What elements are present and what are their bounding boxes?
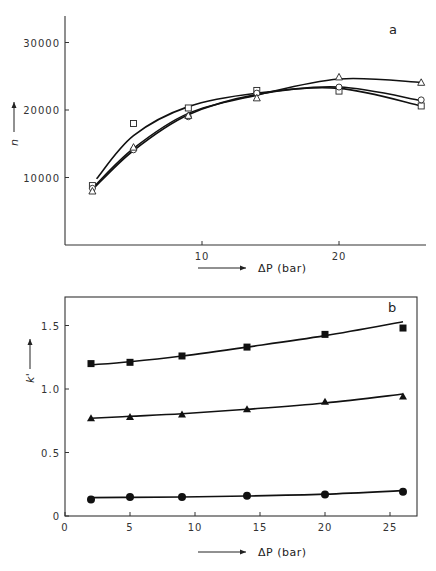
data-point-filled-circle [87, 495, 95, 503]
x-axis-label: ΔP (bar) [258, 546, 306, 559]
panel-label: b [388, 300, 396, 315]
y-axis-arrow-icon-head [28, 339, 33, 345]
x-tick-label: 10 [188, 522, 203, 533]
data-point-filled-square [88, 360, 95, 367]
x-tick-label: 5 [126, 522, 133, 533]
figure: 1020100002000030000aΔP (bar)n 0510152025… [0, 0, 436, 571]
data-point-filled-circle [243, 492, 251, 500]
fit-curve [91, 322, 403, 365]
plot-frame [65, 297, 417, 516]
y-tick-label: 1.0 [41, 384, 60, 395]
data-point-filled-square [179, 352, 186, 359]
data-point-filled-circle [399, 488, 407, 496]
x-tick-label: 20 [318, 522, 333, 533]
data-point-filled-square [244, 344, 251, 351]
data-point-filled-circle [126, 493, 134, 501]
y-axis-label: k' [24, 373, 37, 383]
x-tick-label: 25 [383, 522, 398, 533]
x-tick-label: 0 [61, 522, 68, 533]
y-tick-label: 0 [53, 511, 60, 522]
x-tick-label: 15 [253, 522, 268, 533]
data-point-filled-square [127, 359, 134, 366]
data-point-filled-triangle [321, 398, 329, 405]
data-point-filled-square [322, 331, 329, 338]
x-axis-arrow-icon-head [240, 550, 246, 555]
data-point-filled-circle [321, 490, 329, 498]
y-tick-label: 0.5 [41, 448, 60, 459]
data-point-filled-square [400, 325, 407, 332]
chart-panel-b: 051015202500.51.01.5bΔP (bar)k' [0, 0, 436, 571]
data-point-filled-circle [178, 493, 186, 501]
y-tick-label: 1.5 [41, 321, 60, 332]
